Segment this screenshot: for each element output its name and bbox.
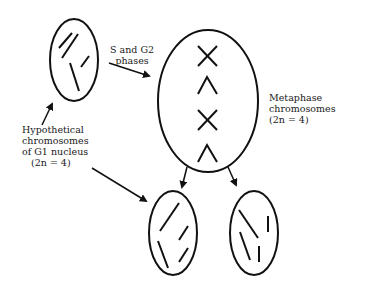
s-g2-line-2: phases xyxy=(110,55,154,66)
arrow-label-to-daughter-1 xyxy=(92,168,146,201)
s-g2-label: S and G2 phases xyxy=(110,44,154,66)
daughter-nucleus-2 xyxy=(230,191,278,275)
g1-line-3: of G1 nucleus xyxy=(22,146,89,157)
metaphase-line-1: Metaphase xyxy=(269,92,336,103)
daughter-nucleus-1 xyxy=(149,191,197,275)
metaphase-cell xyxy=(158,30,258,172)
s-g2-line-1: S and G2 xyxy=(110,44,154,55)
metaphase-line-2: chromosomes xyxy=(269,103,336,114)
arrow-to-g1-nucleus xyxy=(42,104,52,125)
arrow-to-daughter-1 xyxy=(182,167,187,187)
arrow-to-daughter-2 xyxy=(228,167,236,185)
g1-label: Hypothetical chromosomes of G1 nucleus (… xyxy=(22,124,89,168)
g1-line-4: (2n = 4) xyxy=(22,157,89,168)
g1-line-2: chromosomes xyxy=(22,135,89,146)
g1-line-1: Hypothetical xyxy=(22,124,89,135)
metaphase-line-3: (2n = 4) xyxy=(269,114,336,125)
g1-nucleus xyxy=(50,19,98,101)
metaphase-label: Metaphase chromosomes (2n = 4) xyxy=(269,92,336,125)
